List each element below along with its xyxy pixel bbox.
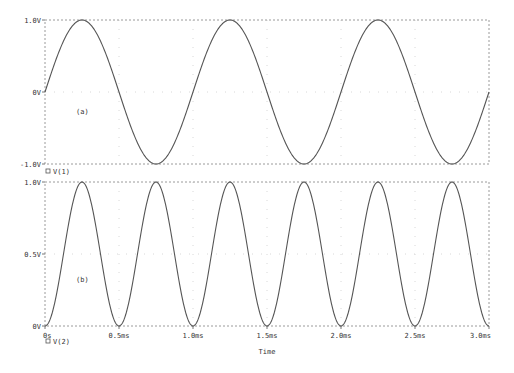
waveform-chart: 1.0V0V-1.0V(a)V(1) 1.0V0.5V0V0s0.5ms1.0m… — [0, 0, 514, 373]
y-tick-label: 0V — [33, 89, 42, 97]
x-tick-label: 3.0ms — [470, 332, 491, 340]
x-tick-label: 2.5ms — [404, 332, 425, 340]
x-tick-label: 1.0ms — [182, 332, 203, 340]
trace-v1 — [45, 20, 489, 164]
y-tick-label: -1.0V — [20, 161, 42, 169]
panel-a: 1.0V0V-1.0V(a)V(1) — [20, 17, 489, 177]
x-tick-label: 1.5ms — [256, 332, 277, 340]
y-tick-label: 1.0V — [24, 17, 42, 25]
y-tick-label: 0V — [33, 323, 42, 331]
panel-label: (a) — [76, 108, 89, 116]
panel-b: 1.0V0.5V0V0s0.5ms1.0ms1.5ms2.0ms2.5ms3.0… — [24, 179, 491, 357]
legend-marker-icon — [46, 169, 50, 173]
x-tick-label: 0.5ms — [108, 332, 129, 340]
y-tick-label: 1.0V — [24, 179, 42, 187]
legend: V(2) — [46, 338, 70, 346]
x-tick-label: 2.0ms — [330, 332, 351, 340]
legend-label: V(2) — [53, 338, 70, 346]
panel-label: (b) — [76, 276, 89, 284]
y-tick-label: 0.5V — [24, 251, 42, 259]
legend-label: V(1) — [53, 168, 70, 176]
x-axis-title: Time — [259, 348, 276, 356]
legend: V(1) — [46, 168, 70, 176]
